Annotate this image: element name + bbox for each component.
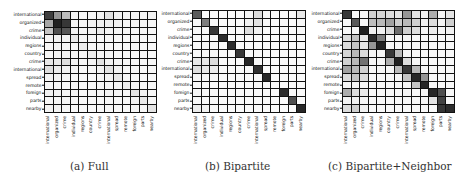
heatmap-cell — [412, 74, 420, 81]
y-tick-label: nearby — [324, 107, 342, 112]
y-tick-label: spread — [324, 75, 341, 80]
heatmap-cell — [395, 35, 403, 42]
heatmap-cell — [369, 105, 377, 112]
heatmap-grid — [342, 10, 455, 113]
heatmap-cell — [386, 50, 394, 57]
heatmap-cell — [446, 42, 454, 49]
heatmap-cell — [395, 50, 403, 57]
heatmap-cell — [438, 50, 446, 57]
heatmap-cell — [438, 11, 446, 18]
heatmap-cell — [446, 35, 454, 42]
heatmap-cell — [352, 82, 360, 89]
heatmap-cell — [421, 50, 429, 57]
y-tick-label: parts — [328, 99, 341, 104]
heatmap-cell — [403, 42, 411, 49]
heatmap-cell — [360, 82, 368, 89]
heatmap-cell — [369, 11, 377, 18]
heatmap-cell — [395, 82, 403, 89]
heatmap-cell — [377, 74, 385, 81]
heatmap-cell — [343, 58, 351, 65]
heatmap-cell — [360, 66, 368, 73]
heatmap-cell — [395, 19, 403, 26]
x-tick-label: international — [405, 116, 410, 144]
heatmap-cell — [360, 42, 368, 49]
heatmap-cell — [421, 42, 429, 49]
heatmap-cell — [421, 82, 429, 89]
heatmap-cell — [377, 35, 385, 42]
heatmap-cell — [386, 89, 394, 96]
heatmap-cell — [343, 66, 351, 73]
heatmap-cell — [412, 27, 420, 34]
heatmap-cell — [429, 11, 437, 18]
heatmap-cell — [429, 35, 437, 42]
heatmap-cell — [446, 58, 454, 65]
heatmap-cell — [412, 11, 420, 18]
heatmap-cell — [446, 66, 454, 73]
heatmap-cell — [360, 74, 368, 81]
heatmap-cell — [421, 66, 429, 73]
heatmap-cell — [352, 74, 360, 81]
heatmap-cell — [343, 74, 351, 81]
y-tick-label: individual — [318, 35, 341, 40]
heatmap-cell — [369, 27, 377, 34]
heatmap-cell — [377, 50, 385, 57]
heatmap-cell — [429, 19, 437, 26]
x-tick-label: regions — [379, 116, 384, 132]
heatmap-cell — [438, 27, 446, 34]
heatmap-cell — [429, 89, 437, 96]
heatmap-cell — [343, 82, 351, 89]
heatmap-cell — [343, 35, 351, 42]
heatmap-cell — [403, 66, 411, 73]
y-tick-label: remote — [323, 83, 341, 88]
heatmap-cell — [446, 97, 454, 104]
heatmap-cell — [360, 27, 368, 34]
heatmap-cell — [446, 19, 454, 26]
x-tick-label: foreign — [431, 116, 436, 131]
x-tick-label: parts — [439, 116, 444, 127]
heatmap-cell — [438, 35, 446, 42]
heatmap-cell — [421, 105, 429, 112]
heatmap-cell — [412, 105, 420, 112]
heatmap-cell — [377, 105, 385, 112]
y-tick-label: foreign — [324, 91, 342, 96]
heatmap-cell — [377, 66, 385, 73]
heatmap-cell — [343, 19, 351, 26]
heatmap-cell — [429, 82, 437, 89]
heatmap-cell — [395, 58, 403, 65]
y-tick-label: country — [323, 51, 342, 56]
heatmap-cell — [386, 82, 394, 89]
heatmap-cell — [438, 58, 446, 65]
heatmap-cell — [377, 42, 385, 49]
heatmap-cell — [403, 19, 411, 26]
heatmap-cell — [377, 19, 385, 26]
x-tick-label: crime — [361, 116, 366, 129]
heatmap-cell — [360, 105, 368, 112]
x-tick-label: country — [387, 116, 392, 133]
heatmap-cell — [395, 97, 403, 104]
heatmap-cell — [352, 11, 360, 18]
heatmap-cell — [352, 66, 360, 73]
heatmap-cell — [412, 89, 420, 96]
heatmap-cell — [412, 50, 420, 57]
heatmap-cell — [421, 27, 429, 34]
y-tick-label: organized — [318, 20, 342, 25]
heatmap-cell — [421, 58, 429, 65]
heatmap-cell — [446, 82, 454, 89]
heatmap-cell — [403, 105, 411, 112]
heatmap-cell — [343, 89, 351, 96]
heatmap-cell — [386, 42, 394, 49]
heatmap-cell — [360, 35, 368, 42]
heatmap-cell — [403, 97, 411, 104]
heatmap-cell — [446, 74, 454, 81]
heatmap-cell — [395, 11, 403, 18]
heatmap-cell — [377, 58, 385, 65]
heatmap-cell — [438, 19, 446, 26]
panel-caption: (c) Bipartite+Neighbor — [328, 160, 452, 172]
heatmap-cell — [395, 42, 403, 49]
y-tick-label: crime — [327, 59, 342, 64]
x-tick-label: organized — [353, 116, 358, 138]
heatmap-cell — [438, 74, 446, 81]
heatmap-cell — [352, 42, 360, 49]
heatmap-cell — [438, 82, 446, 89]
heatmap-cell — [421, 35, 429, 42]
